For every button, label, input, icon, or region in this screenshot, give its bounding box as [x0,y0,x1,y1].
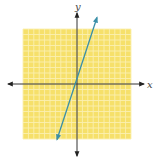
y-axis-label: y [74,1,81,12]
x-axis-label: x [147,79,153,90]
chart: y x [0,0,155,162]
